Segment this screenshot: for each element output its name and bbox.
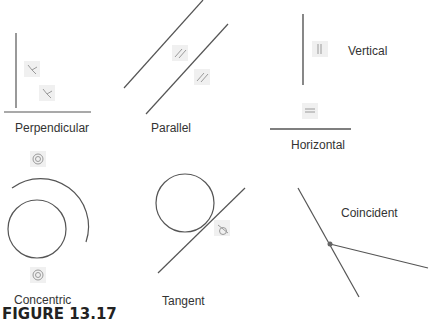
horizontal-icon: [302, 103, 318, 119]
label-tangent: Tangent: [162, 294, 205, 308]
concentric-icon: [30, 151, 46, 283]
label-vertical: Vertical: [348, 44, 387, 58]
figure-caption: FIGURE 13.17: [2, 305, 117, 323]
perpendicular-icon: [24, 61, 55, 101]
coincident-example: [298, 188, 428, 297]
vertical-icon: [312, 41, 328, 57]
label-perpendicular: Perpendicular: [15, 121, 89, 135]
label-coincident: Coincident: [341, 206, 398, 220]
tangent-example: [156, 174, 245, 273]
concentric-example: [8, 179, 89, 258]
label-parallel: Parallel: [151, 121, 191, 135]
tangent-icon: [214, 220, 230, 236]
label-horizontal: Horizontal: [291, 138, 345, 152]
coincident-point: [328, 242, 333, 247]
